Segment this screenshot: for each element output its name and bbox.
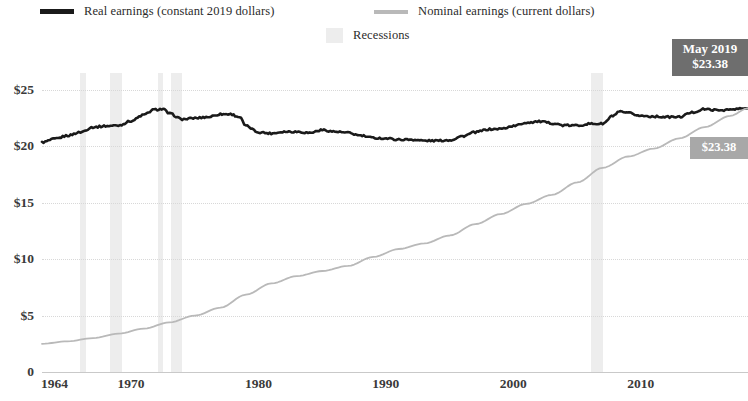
y-axis-tick-25: $25 xyxy=(14,82,34,98)
y-axis-tick-5: $5 xyxy=(21,308,35,324)
legend-label-recessions: Recessions xyxy=(353,28,410,43)
callout-secondary-value: $23.38 xyxy=(690,140,748,155)
legend-label-nominal-earnings: Nominal earnings (current dollars) xyxy=(418,4,595,19)
legend-item-real-earnings: Real earnings (constant 2019 dollars) xyxy=(40,4,274,19)
legend-swatch-recessions-icon xyxy=(326,28,343,43)
callout-may-2019: May 2019 $23.38 xyxy=(672,39,748,76)
legend-item-recessions: Recessions xyxy=(326,28,410,43)
x-axis-tick-2000: 2000 xyxy=(500,376,527,392)
series-lines xyxy=(42,73,748,372)
callout-primary-date: May 2019 xyxy=(672,41,748,56)
x-axis-labels: 1964 1970 1980 1990 2000 2010 xyxy=(0,376,748,401)
chart-container: Real earnings (constant 2019 dollars) No… xyxy=(0,0,748,401)
y-axis-tick-20: $20 xyxy=(14,138,34,154)
x-axis-tick-1980: 1980 xyxy=(245,376,272,392)
x-axis-tick-2010: 2010 xyxy=(627,376,654,392)
axis-baseline xyxy=(42,372,748,373)
y-axis-labels: $25 $20 $15 $10 $5 0 xyxy=(0,0,42,401)
x-axis-tick-1964: 1964 xyxy=(41,376,68,392)
legend-swatch-real-earnings-icon xyxy=(40,9,74,14)
y-axis-tick-10: $10 xyxy=(14,251,34,267)
y-axis-tick-15: $15 xyxy=(14,195,34,211)
x-axis-tick-1990: 1990 xyxy=(372,376,399,392)
legend-item-nominal-earnings: Nominal earnings (current dollars) xyxy=(374,4,595,19)
series-line-nominal-earnings xyxy=(42,108,748,344)
legend-label-real-earnings: Real earnings (constant 2019 dollars) xyxy=(84,4,274,19)
callout-nominal-value: $23.38 xyxy=(690,137,748,159)
callout-primary-value: $23.38 xyxy=(672,56,748,71)
x-axis-tick-1970: 1970 xyxy=(117,376,144,392)
plot-area xyxy=(42,73,748,372)
series-line-real-earnings xyxy=(42,108,748,143)
legend-swatch-nominal-earnings-icon xyxy=(374,10,408,14)
